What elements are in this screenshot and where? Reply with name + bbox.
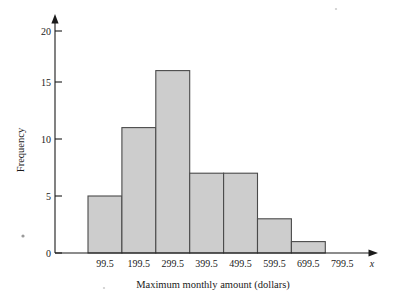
x-tick-label-499-5: 499.5 [229,258,252,269]
x-axis-title: Maximum monthly amount (dollars) [136,279,290,291]
histogram-bar [88,196,122,253]
x-tick-label-799-5: 799.5 [331,258,354,269]
y-tick-label-20: 20 [41,26,51,37]
x-tick-label-699-5: 699.5 [297,258,320,269]
y-tick-label-5: 5 [46,191,51,202]
y-tick-label-0: 0 [46,248,51,259]
y-axis-title: Frequency [15,127,26,172]
x-tick-label-399-5: 399.5 [195,258,218,269]
histogram-bar [122,128,156,253]
y-tick-label-10: 10 [41,134,51,145]
x-tick-label-99-5: 99.5 [96,258,114,269]
page-speck [335,8,337,10]
histogram-bar [291,242,325,253]
histogram-bar [224,173,258,253]
x-tick-label-299-5: 299.5 [161,258,184,269]
chart-background [0,0,411,301]
histogram-figure: 0 5 10 15 20 Frequency 99.5 199.5 299.5 … [0,0,411,301]
histogram-bar [156,71,190,253]
histogram-bar [190,173,224,253]
x-tick-label-199-5: 199.5 [128,258,151,269]
x-tick-label-599-5: 599.5 [263,258,286,269]
y-tick-label-15: 15 [41,77,51,88]
x-axis-variable-label: x [369,258,375,269]
page-speck [21,234,24,237]
histogram-svg: 0 5 10 15 20 Frequency 99.5 199.5 299.5 … [0,0,411,301]
page-speck [103,287,105,289]
histogram-bar [258,219,292,253]
